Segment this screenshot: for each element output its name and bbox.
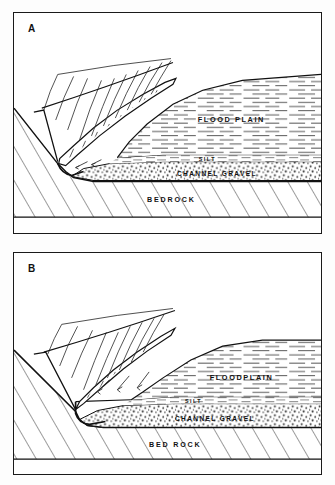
label-silt-a: SILT — [199, 156, 216, 162]
label-channel-gravel-b: CHANNEL GRAVEL — [175, 415, 255, 422]
label-floodplain-a: FLOOD PLAIN — [198, 115, 265, 124]
label-bedrock-a: BEDROCK — [147, 196, 196, 204]
panel-a-drawing: FLOOD PLAIN SILT CHANNEL GRAVEL BEDROCK — [14, 13, 321, 233]
panel-letter-b: B — [28, 263, 36, 274]
panel-letter-a: A — [28, 23, 36, 34]
label-bedrock-b: BED ROCK — [149, 441, 201, 449]
label-floodplain-b: FLOODPLAIN — [210, 373, 274, 382]
label-silt-b: SILT — [185, 398, 202, 404]
panel-b: FLOODPLAIN SILT CHANNEL GRAVEL BED ROCK … — [13, 252, 322, 475]
label-channel-gravel-a: CHANNEL GRAVEL — [177, 170, 257, 177]
panel-a: FLOOD PLAIN SILT CHANNEL GRAVEL BEDROCK … — [13, 12, 322, 234]
panel-b-drawing: FLOODPLAIN SILT CHANNEL GRAVEL BED ROCK — [14, 253, 321, 474]
floodplain-unit-b — [131, 340, 321, 399]
figure-geologic-cross-sections: FLOOD PLAIN SILT CHANNEL GRAVEL BEDROCK … — [0, 0, 335, 485]
